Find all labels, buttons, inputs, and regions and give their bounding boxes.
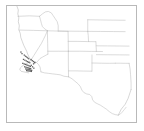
data-point (24, 60, 25, 61)
data-point (25, 64, 26, 65)
state-boundaries (17, 6, 131, 115)
data-point (27, 65, 28, 66)
oregon-southern-border (19, 30, 47, 31)
arizona-mexico-border (41, 72, 69, 77)
data-point (28, 58, 29, 59)
data-point (24, 54, 25, 55)
data-point (33, 63, 34, 64)
data-point (29, 62, 30, 63)
texas-gulf-coast (118, 90, 131, 116)
data-point (26, 70, 27, 71)
idaho-western-border (39, 16, 47, 30)
data-point (32, 60, 33, 61)
data-point (31, 71, 32, 72)
map-frame (6, 5, 137, 123)
map-figure (0, 0, 144, 131)
data-point (31, 65, 32, 66)
texas-coastal-bend (118, 107, 126, 115)
wyoming-eastern-border (88, 31, 89, 41)
data-point (24, 63, 25, 64)
data-point (34, 62, 35, 63)
data-point (33, 68, 34, 69)
data-point (26, 67, 27, 68)
data-point (26, 60, 27, 61)
idaho-montana-border (39, 11, 58, 31)
data-point (32, 66, 33, 67)
data-point (29, 69, 30, 70)
data-point (33, 61, 34, 62)
data-point (26, 69, 27, 70)
data-point (25, 68, 26, 69)
data-point (29, 68, 30, 69)
data-point (26, 64, 27, 65)
data-point (21, 53, 22, 54)
data-point (27, 61, 28, 62)
data-point (27, 70, 28, 71)
data-point (27, 69, 28, 70)
data-point (24, 66, 25, 67)
data-point (25, 67, 26, 68)
rio-grande (69, 77, 119, 115)
data-point (20, 51, 21, 52)
map-svg (7, 6, 136, 122)
data-point (28, 62, 29, 63)
data-point (28, 70, 29, 71)
map-canvas[interactable] (7, 6, 136, 122)
data-point (23, 59, 24, 60)
texas-eastern-border (129, 63, 131, 89)
data-point (30, 69, 31, 70)
data-point (30, 71, 31, 72)
data-point (30, 68, 31, 69)
data-point (29, 65, 30, 66)
data-point (22, 63, 23, 64)
nevada-arizona-border (37, 54, 48, 62)
data-point (28, 67, 29, 68)
data-point (30, 59, 31, 60)
